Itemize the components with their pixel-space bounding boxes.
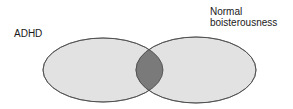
label-normal-boisterousness: Normal boisterousness <box>210 6 277 28</box>
label-adhd: ADHD <box>14 28 42 39</box>
label-normal-line2: boisterousness <box>210 17 277 28</box>
venn-diagram: ADHD Normal boisterousness <box>0 0 293 109</box>
label-normal-line1: Normal <box>210 6 277 17</box>
